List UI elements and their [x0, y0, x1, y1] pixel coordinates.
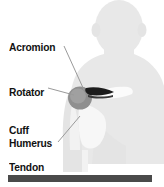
label-acromion: Acromion	[9, 41, 55, 54]
shoulder-anatomy-figure: Acromion Rotator Cuff Tendon Humerus	[0, 0, 164, 187]
label-rotator-line-2: Cuff	[9, 124, 44, 137]
label-rotator-cuff-tendon: Rotator Cuff Tendon	[9, 61, 44, 187]
label-rotator-line-3: Tendon	[9, 161, 44, 174]
label-humerus: Humerus	[9, 137, 52, 150]
label-rotator-line-1: Rotator	[9, 86, 44, 99]
head-shape	[95, 0, 143, 56]
